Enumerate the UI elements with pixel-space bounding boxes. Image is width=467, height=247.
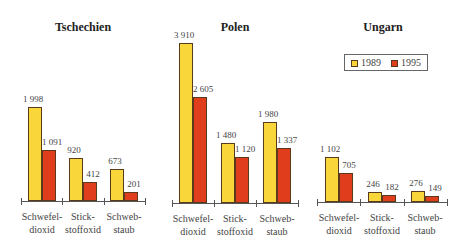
axis-tick [447,199,448,206]
chart-title-tschechien: Tschechien [55,20,111,35]
value-label: 201 [127,179,141,189]
axis-tick [145,198,146,205]
x-axis-tschechien [21,201,145,202]
category-label: Schwefel-dioxid [19,210,65,236]
legend-swatch-1995 [391,60,398,67]
bar-tschechien-1995 [124,192,138,201]
bar-ungarn-1995 [339,173,353,202]
legend-label-1989: 1989 [361,57,381,68]
bar-polen-1989 [179,43,193,203]
bar-polen-1995 [193,97,207,203]
bar-polen-1989 [263,122,277,203]
category-label: Stick-stoffoxid [212,212,258,238]
axis-tick [104,198,105,205]
value-label: 673 [108,156,122,166]
value-label: 1 337 [277,135,297,145]
value-label: 1 980 [258,109,278,119]
category-label: Schweb-staub [101,210,147,236]
value-label: 276 [409,178,423,188]
value-label: 1 102 [320,144,340,154]
bar-ungarn-1995 [382,195,396,202]
value-label: 1 480 [216,130,236,140]
value-label: 3 910 [174,30,194,40]
x-axis-polen [172,203,298,204]
legend: 1989 1995 [344,54,428,71]
bar-tschechien-1995 [83,182,97,201]
bar-ungarn-1995 [425,196,439,202]
category-label: Schwefel-dioxid [316,211,362,237]
axis-tick [62,198,63,205]
value-label: 705 [342,160,356,170]
bar-ungarn-1989 [368,192,382,202]
value-label: 1 120 [235,144,255,154]
axis-tick [360,199,361,206]
legend-label-1995: 1995 [401,57,421,68]
category-label: Schweb-staub [402,211,448,237]
value-label: 2 605 [193,84,213,94]
x-axis-ungarn [317,202,447,203]
bar-tschechien-1989 [28,107,42,201]
axis-tick [317,199,318,206]
value-label: 920 [67,145,81,155]
bar-tschechien-1989 [69,158,83,201]
value-label: 1 091 [42,137,62,147]
category-label: Schwefel-dioxid [170,212,216,238]
value-label: 182 [385,182,399,192]
value-label: 412 [86,169,100,179]
axis-tick [21,198,22,205]
legend-swatch-1989 [351,60,358,67]
bar-tschechien-1995 [42,150,56,201]
axis-tick [404,199,405,206]
value-label: 246 [366,179,380,189]
category-label: Schweb-staub [254,212,300,238]
bar-polen-1989 [221,143,235,203]
category-label: Stick-stoffoxid [60,210,106,236]
axis-tick [298,200,299,207]
bar-ungarn-1989 [411,191,425,202]
bar-tschechien-1989 [110,169,124,201]
chart-title-polen: Polen [221,20,250,35]
value-label: 149 [428,183,442,193]
bar-ungarn-1989 [325,157,339,202]
chart-title-ungarn: Ungarn [363,20,402,35]
bar-polen-1995 [277,148,291,203]
axis-tick [214,200,215,207]
value-label: 1 998 [23,94,43,104]
axis-tick [256,200,257,207]
category-label: Stick-stoffoxid [359,211,405,237]
bar-polen-1995 [235,157,249,203]
axis-tick [172,200,173,207]
